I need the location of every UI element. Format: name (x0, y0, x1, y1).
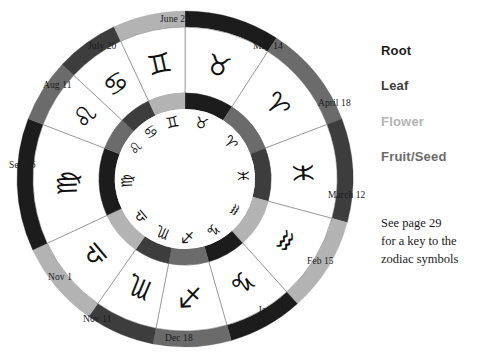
date-label-dec-18: Dec 18 (165, 333, 193, 343)
note-line-2: for a key to the (381, 232, 493, 250)
legend-item-leaf: Leaf (381, 79, 493, 93)
legend-item-flower: Flower (381, 115, 493, 129)
date-label-july-20: July 20 (88, 41, 116, 51)
outer-symbol-sagittarius: ♐ (177, 281, 203, 313)
zodiac-key-note: See page 29 for a key to the zodiac symb… (381, 214, 493, 268)
date-label-march-12: March 12 (328, 190, 365, 200)
date-label-aug-11: Aug 11 (43, 80, 71, 90)
date-label-april-18: April 18 (318, 98, 351, 108)
note-line-1: See page 29 (381, 214, 493, 232)
legend-item-fruit-seed: Fruit/Seed (381, 150, 493, 164)
inner-sector-group (115, 109, 255, 249)
inner-symbol-pisces: ♓ (234, 169, 253, 183)
zodiac-wheel: ♉♈♓♒♑♐♏♎♍♌♋♊ ♉♈♓♒♑♐♏♎♍♌♋♊ June 21May 14A… (0, 0, 370, 357)
inner-band-sagittarius (169, 246, 209, 265)
date-label-nov-1: Nov 1 (48, 272, 72, 282)
zodiac-wheel-svg: ♉♈♓♒♑♐♏♎♍♌♋♊ ♉♈♓♒♑♐♏♎♍♌♋♊ (0, 0, 370, 357)
legend: Root Leaf Flower Fruit/Seed (381, 44, 493, 185)
note-line-3: zodiac symbols (381, 250, 493, 268)
date-label-nov-11: Nov 11 (83, 314, 111, 324)
outer-symbol-virgo: ♍ (51, 170, 83, 195)
date-label-feb-15: Feb 15 (307, 256, 334, 266)
date-label-sep-16: Sep 16 (9, 160, 36, 170)
inner-symbol-virgo: ♍ (118, 174, 136, 188)
legend-item-root: Root (381, 44, 493, 58)
inner-symbol-sagittarius: ♐ (180, 228, 194, 247)
outer-symbol-pisces: ♓ (287, 160, 319, 186)
date-label-jan-20: Jan 20 (258, 305, 283, 315)
date-label-june-21: June 21 (160, 14, 190, 24)
date-label-may-14: May 14 (253, 41, 283, 51)
